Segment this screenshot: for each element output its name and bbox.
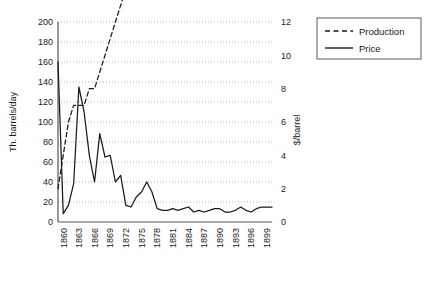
chart-container: 2001801601401201008060402001210864201860…: [0, 0, 436, 283]
x-axis-tick: 1887: [199, 228, 209, 248]
legend-label-production: Production: [359, 26, 404, 37]
x-axis-tick: 1896: [246, 228, 256, 248]
gridlines: [58, 22, 272, 202]
y-axis-left-title: Th. barrels/day: [8, 91, 18, 152]
x-axis-tick: 1881: [168, 228, 178, 248]
legend-label-price: Price: [359, 43, 381, 54]
y-axis-left-tick: 200: [38, 17, 53, 27]
oil-production-price-chart: 2001801601401201008060402001210864201860…: [0, 0, 436, 283]
y-axis-right-tick: 2: [281, 184, 286, 194]
y-axis-left-tick: 100: [38, 117, 53, 127]
y-axis-right-tick: 0: [281, 217, 286, 227]
y-axis-left-tick: 0: [48, 217, 53, 227]
y-axis-left-tick: 180: [38, 37, 53, 47]
x-axis-tick: 1875: [137, 228, 147, 248]
y-axis-left-tick: 20: [43, 197, 53, 207]
x-axis-tick: 1893: [231, 228, 241, 248]
y-axis-right-title: $/barrel: [292, 115, 302, 146]
x-axis-tick: 1860: [59, 228, 69, 248]
x-axis-tick: 1869: [105, 228, 115, 248]
x-axis-tick: 1884: [184, 228, 194, 248]
x-axis-tick: 1872: [121, 228, 131, 248]
y-axis-left-tick: 80: [43, 137, 53, 147]
legend: ProductionPrice: [317, 18, 421, 59]
y-axis-left-tick: 60: [43, 157, 53, 167]
x-axis-tick: 1863: [74, 228, 84, 248]
series-line-price: [58, 62, 272, 214]
y-axis-right-tick: 6: [281, 117, 286, 127]
y-axis-right-tick: 12: [281, 17, 291, 27]
x-axis-tick: 1890: [215, 228, 225, 248]
x-axis-tick: 1899: [262, 228, 272, 248]
y-axis-right-tick: 10: [281, 51, 291, 61]
y-axis-left-tick: 140: [38, 77, 53, 87]
y-axis-left-tick: 160: [38, 57, 53, 67]
y-axis-right-tick: 4: [281, 151, 286, 161]
y-axis-left-tick: 40: [43, 177, 53, 187]
y-axis-left-tick: 120: [38, 97, 53, 107]
x-axis-tick: 1878: [152, 228, 162, 248]
y-axis-right-tick: 8: [281, 84, 286, 94]
x-axis-tick: 1866: [90, 228, 100, 248]
